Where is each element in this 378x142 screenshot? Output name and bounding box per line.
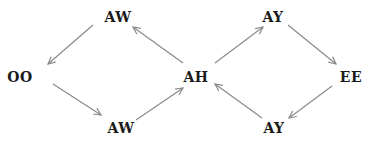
state-cycle-diagram: AW OO AW AH AY EE AY bbox=[0, 0, 378, 142]
node-aw-top: AW bbox=[105, 9, 132, 25]
arrowhead-icon bbox=[175, 88, 183, 95]
arrow-ee-to-ay-bottom bbox=[289, 86, 332, 118]
arrow-ah-to-ay-top bbox=[215, 27, 263, 63]
arrow-ay-top-to-ee bbox=[288, 25, 336, 64]
arrow-oo-to-aw-bottom bbox=[53, 84, 101, 115]
arrow-ay-bottom-to-ah bbox=[215, 84, 262, 118]
arrow-aw-top-to-oo bbox=[48, 25, 93, 64]
arrow-aw-bottom-to-ah bbox=[136, 88, 183, 120]
node-ee: EE bbox=[340, 69, 362, 85]
node-ay-bottom: AY bbox=[263, 120, 284, 136]
node-oo: OO bbox=[7, 69, 32, 85]
node-ah: AH bbox=[183, 69, 208, 85]
arrowhead-icon bbox=[93, 108, 101, 115]
arrow-ah-to-aw-top bbox=[133, 27, 183, 63]
node-aw-bottom: AW bbox=[108, 120, 135, 136]
node-ay-top: AY bbox=[262, 9, 283, 25]
